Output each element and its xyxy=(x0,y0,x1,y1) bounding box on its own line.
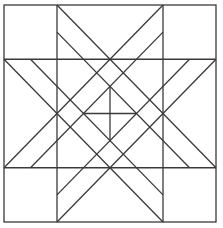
diagonal-line xyxy=(4,59,163,222)
diagonal-line xyxy=(57,59,216,222)
diagonal-line xyxy=(57,32,190,168)
center-cross xyxy=(84,86,137,140)
diagonal-line xyxy=(4,5,163,168)
diagonal-line xyxy=(57,5,216,168)
geometric-pattern-diagram xyxy=(0,0,223,228)
diagonal-line xyxy=(31,32,164,168)
diagonal-line xyxy=(57,59,190,195)
diagonal-line xyxy=(31,59,164,195)
